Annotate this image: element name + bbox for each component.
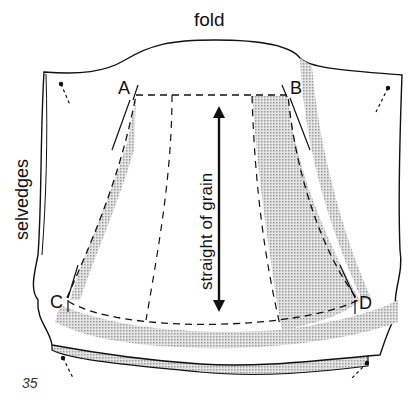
- point-a: A: [118, 78, 130, 98]
- label-fold: fold: [194, 9, 225, 30]
- label-straight-of-grain: straight of grain: [197, 173, 216, 290]
- diagram-canvas: fold selvedges straight of grain A B C D…: [0, 0, 418, 420]
- point-d: D: [359, 293, 372, 313]
- point-c: C: [50, 292, 63, 312]
- label-selvedges: selvedges: [12, 159, 32, 240]
- figure-number: 35: [22, 375, 38, 391]
- sewing-diagram: fold selvedges straight of grain A B C D…: [0, 0, 418, 420]
- point-b: B: [290, 78, 302, 98]
